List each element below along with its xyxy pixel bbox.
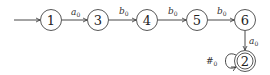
state-3: 3 bbox=[88, 10, 109, 31]
label-6-2: a0 bbox=[249, 36, 258, 47]
svg-text:2: 2 bbox=[241, 54, 249, 69]
svg-text:3: 3 bbox=[94, 13, 102, 28]
diagram-svg: a0 b0 b0 b0 a0 #0 1 3 4 5 6 2 bbox=[0, 0, 270, 75]
label-3-4: b0 bbox=[119, 6, 129, 17]
label-1-3: a0 bbox=[71, 7, 80, 18]
svg-text:5: 5 bbox=[193, 13, 201, 28]
state-6: 6 bbox=[235, 10, 256, 31]
svg-text:4: 4 bbox=[143, 13, 151, 28]
svg-text:1: 1 bbox=[47, 13, 55, 28]
state-5: 5 bbox=[187, 10, 208, 31]
state-1: 1 bbox=[41, 10, 62, 31]
svg-text:6: 6 bbox=[241, 13, 249, 28]
label-2-2: #0 bbox=[206, 56, 218, 67]
state-4: 4 bbox=[137, 10, 158, 31]
state-2-accepting: 2 bbox=[235, 51, 256, 72]
label-4-5: b0 bbox=[168, 6, 178, 17]
automaton-diagram: a0 b0 b0 b0 a0 #0 1 3 4 5 6 2 bbox=[0, 0, 270, 75]
label-5-6: b0 bbox=[217, 6, 227, 17]
